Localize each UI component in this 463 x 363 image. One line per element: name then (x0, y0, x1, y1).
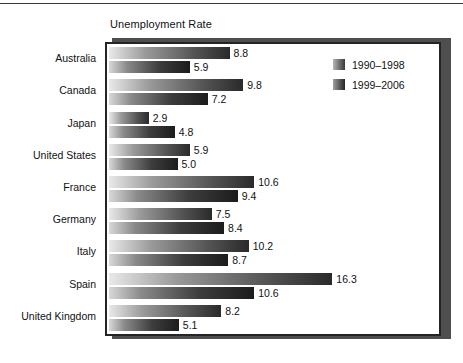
bar-series-2 (109, 126, 175, 138)
bar-series-1 (109, 208, 212, 220)
bar-value-label: 5.9 (194, 144, 209, 156)
legend-swatch-1990-1998-icon (333, 59, 345, 70)
legend-swatch-1999-2006-icon (333, 79, 345, 90)
bar-series-1 (109, 176, 254, 188)
bar-value-label: 7.2 (212, 93, 227, 105)
bar-series-2 (109, 319, 179, 331)
category-label: France (63, 181, 96, 193)
category-label: United Kingdom (21, 310, 96, 322)
bar-value-label: 8.2 (225, 305, 240, 317)
legend-item: 1999–2006 (333, 76, 429, 93)
chart-legend: 1990–19981999–2006 (333, 56, 429, 96)
bar-value-label: 4.8 (179, 126, 194, 138)
bar-series-1 (109, 112, 149, 124)
bar-value-label: 10.6 (258, 176, 278, 188)
bar-value-label: 5.1 (183, 319, 198, 331)
bar-series-1 (109, 273, 332, 285)
bar-value-label: 9.8 (247, 79, 262, 91)
bar-value-label: 10.2 (253, 240, 273, 252)
bar-series-1 (109, 240, 249, 252)
bar-series-2 (109, 222, 224, 234)
bar-value-label: 8.8 (234, 47, 249, 59)
bar-series-2 (109, 190, 238, 202)
category-label: United States (33, 149, 96, 161)
bar-series-1 (109, 305, 221, 317)
category-axis: AustraliaCanadaJapanUnited StatesFranceG… (0, 42, 101, 336)
legend-label: 1999–2006 (352, 79, 405, 91)
top-divider-rule (0, 3, 463, 4)
category-label: Germany (53, 213, 96, 225)
bar-value-label: 16.3 (336, 273, 356, 285)
bar-value-label: 9.4 (242, 190, 257, 202)
category-label: Canada (59, 84, 96, 96)
bar-series-1 (109, 79, 243, 91)
chart-title: Unemployment Rate (110, 18, 212, 30)
bar-value-label: 8.7 (232, 254, 247, 266)
bar-series-2 (109, 158, 178, 170)
bar-value-label: 5.9 (194, 61, 209, 73)
bar-value-label: 7.5 (216, 208, 231, 220)
plot-frame: 8.85.99.87.22.94.85.95.010.69.47.58.410.… (105, 42, 441, 336)
bar-value-label: 2.9 (153, 112, 168, 124)
bar-value-label: 5.0 (182, 158, 197, 170)
category-label: Italy (77, 245, 96, 257)
category-label: Spain (69, 278, 96, 290)
category-label: Australia (55, 52, 96, 64)
bar-series-1 (109, 144, 190, 156)
bar-series-2 (109, 93, 208, 105)
bar-series-2 (109, 254, 228, 266)
bar-series-1 (109, 47, 230, 59)
legend-label: 1990–1998 (352, 59, 405, 71)
legend-item: 1990–1998 (333, 56, 429, 73)
bar-value-label: 10.6 (258, 287, 278, 299)
bar-value-label: 8.4 (228, 222, 243, 234)
category-label: Japan (67, 117, 96, 129)
bar-series-2 (109, 287, 254, 299)
bar-series-2 (109, 61, 190, 73)
